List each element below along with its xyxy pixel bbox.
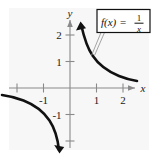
y-tick-label--1: -1 <box>52 109 61 121</box>
x-tick-label--1: -1 <box>39 94 48 106</box>
callout-fraction-denominator: x <box>136 24 141 34</box>
tick-labels: -1 1 2 2 1 -1 <box>39 29 126 121</box>
callout-box[interactable]: f(x) = 1 x <box>97 10 150 34</box>
axis-group <box>9 20 135 148</box>
x-tick-label-2: 2 <box>120 94 126 106</box>
graph-canvas: -1 1 2 2 1 -1 x y f(x) = <box>0 0 157 157</box>
x-tick-label-1: 1 <box>94 94 100 106</box>
x-axis-arrowhead <box>128 85 135 91</box>
figure-container: -1 1 2 2 1 -1 x y f(x) = <box>0 0 157 157</box>
x-axis-label: x <box>140 82 146 94</box>
callout-equals-sign: = <box>120 16 126 28</box>
curve-branch-positive <box>81 25 137 81</box>
callout-fx-label: f(x) <box>101 16 117 29</box>
curve-positive-arrowhead <box>76 22 86 31</box>
curve-branch-negative <box>2 95 59 150</box>
y-tick-label-2: 2 <box>56 29 62 41</box>
y-axis-arrowhead <box>67 20 73 27</box>
y-tick-label-1: 1 <box>56 56 62 68</box>
curve-negative-arrowhead <box>54 145 64 154</box>
callout-leader-lines <box>92 33 105 56</box>
callout-fraction-numerator: 1 <box>137 13 142 23</box>
y-axis-label: y <box>67 7 73 19</box>
